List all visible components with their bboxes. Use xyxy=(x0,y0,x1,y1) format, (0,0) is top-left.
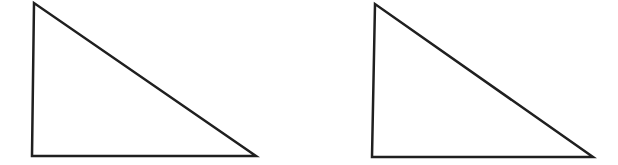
figure-svg xyxy=(0,0,618,165)
triangle-figure xyxy=(0,0,618,165)
right-right-triangle xyxy=(372,4,593,157)
left-right-triangle xyxy=(32,3,256,156)
